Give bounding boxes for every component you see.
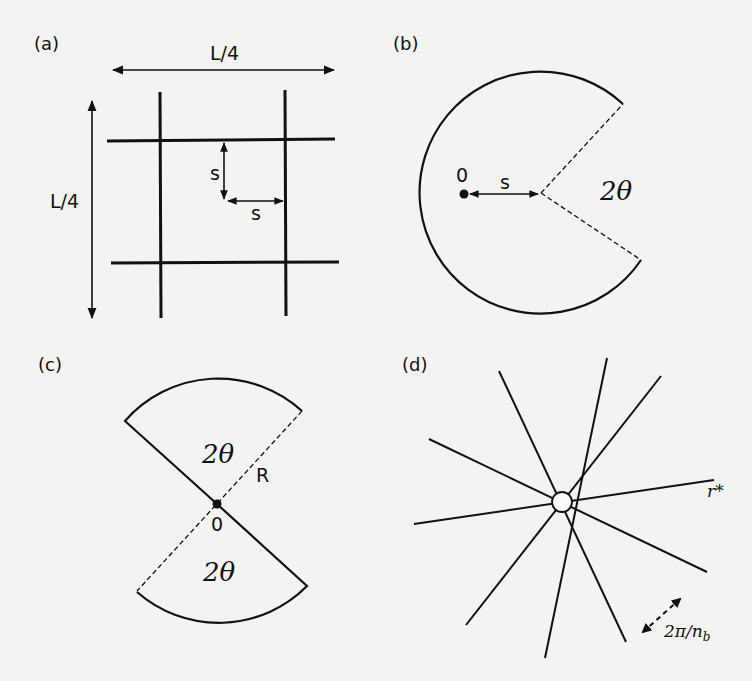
panel-d: (d) r* 2π/nb: [402, 354, 724, 658]
figure: (a) L/4 L/4 s s (b) 0: [0, 0, 752, 681]
panel-a: (a) L/4 L/4 s s: [34, 33, 339, 318]
angle-label-bottom: 2θ: [202, 557, 236, 587]
origin-label: 0: [211, 513, 223, 535]
panel-b: (b) 0 s 2θ: [393, 33, 641, 314]
center-disk: [552, 492, 572, 512]
width-label: L/4: [210, 42, 239, 64]
angle-spacing-label: 2π/nb: [663, 621, 710, 644]
origin-dot: [213, 500, 222, 509]
spacing-arrows: [224, 143, 283, 201]
height-label: L/4: [50, 190, 79, 212]
spacing-label-vertical: s: [210, 162, 220, 184]
radius-label: R: [256, 464, 269, 486]
panel-label-c: (c): [38, 354, 62, 375]
angle-label: 2θ: [599, 176, 633, 206]
spacing-label-horizontal: s: [251, 202, 261, 224]
grid-line-horizontal-top: [107, 139, 335, 141]
offset-label: s: [500, 171, 510, 193]
angle-spacing-subscript: b: [703, 630, 711, 644]
panel-c: (c) 2θ R 0 2θ: [38, 354, 307, 623]
angle-spacing-main: 2π/n: [663, 621, 703, 641]
grid-line-vertical-left: [160, 92, 161, 318]
origin-label: 0: [456, 164, 468, 186]
origin-dot: [460, 190, 469, 199]
grid-line-horizontal-bottom: [111, 262, 339, 263]
grid-lines: [107, 90, 339, 318]
grid-line-vertical-right: [285, 90, 286, 316]
panel-label-b: (b): [393, 33, 418, 54]
panel-label-a: (a): [34, 33, 59, 54]
panel-label-d: (d): [402, 354, 427, 375]
radius-label: r*: [707, 481, 724, 501]
angle-label-top: 2θ: [201, 439, 235, 469]
